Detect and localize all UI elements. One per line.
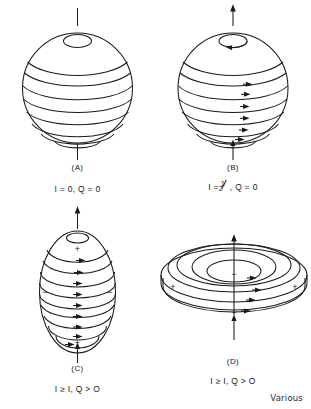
latitude-6 (188, 124, 279, 137)
panel-c-drawing: + − − + (0, 205, 155, 409)
latitude-4 (24, 99, 132, 113)
latitude-1 (28, 62, 128, 75)
charge-sign-equator-right: + (292, 282, 297, 292)
latitude-5 (27, 112, 129, 125)
latitude-cap (64, 35, 92, 48)
panel-d-caption: I ≥ I, Q > O (155, 376, 311, 386)
panel-c-label: (C) (0, 364, 155, 373)
charge-sign-polar-bottom: − (231, 307, 236, 317)
charge-sign-equator-left: + (170, 282, 175, 292)
charge-sign-north: + (75, 244, 80, 254)
charge-sign-equator-right: − (107, 287, 112, 297)
panel-d-oblate-spheroid: − + + − (D) I ≥ I, Q > O (155, 205, 311, 409)
fraction-denominator: 2 (219, 184, 223, 193)
panel-b-caption-prefix: I = (208, 182, 219, 192)
sphere-outline (23, 33, 133, 143)
charge-sign-equator-left: − (42, 287, 47, 297)
latitude-5 (40, 294, 116, 309)
latitude-6 (41, 305, 114, 318)
figure-source-note: Various (0, 393, 303, 403)
latitude-2 (43, 261, 112, 273)
panel-b-drawing (155, 0, 311, 205)
latitude-3 (41, 272, 115, 287)
panel-d-label: (D) (155, 357, 311, 366)
sphere-outline (178, 33, 288, 143)
panel-b-caption: I =12, Q = 0 (155, 182, 311, 192)
panel-a-label: (A) (0, 163, 155, 172)
latitude-3 (179, 86, 288, 100)
panel-b-spinning-sphere: (B) I =12, Q = 0 (155, 0, 311, 205)
panel-a-caption: I = 0, Q = 0 (0, 184, 155, 194)
latitude-4 (40, 283, 116, 298)
charge-sign-south: + (75, 338, 80, 348)
latitude-6 (32, 124, 123, 137)
panel-b-caption-suffix: , Q = 0 (230, 182, 258, 192)
latitude-cap (67, 233, 89, 243)
nuclear-spin-quadrupole-figure: (A) I = 0, Q = 0 (0, 0, 311, 409)
panel-b-label: (B) (155, 163, 311, 172)
latitude-4 (179, 99, 287, 113)
panel-a-drawing (0, 0, 155, 205)
latitude-1 (183, 62, 283, 75)
latitude-5 (182, 112, 284, 125)
charge-sign-polar-top: − (231, 269, 236, 279)
panel-a-sphere: (A) I = 0, Q = 0 (0, 0, 155, 205)
panel-c-prolate-spheroid: + − − + (C) I ≥ I, Q > O (0, 205, 155, 409)
spin-fraction: 12 (219, 183, 230, 192)
latitude-3 (23, 86, 132, 100)
